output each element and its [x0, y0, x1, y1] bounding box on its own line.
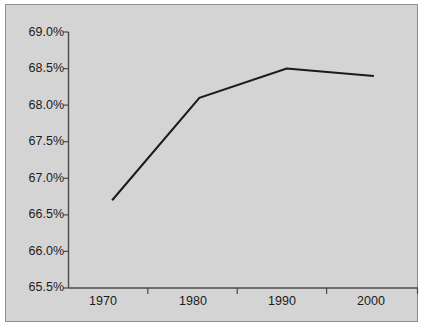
- x-axis-ticks: [148, 288, 418, 294]
- data-line-series-1: [112, 69, 374, 201]
- y-axis-ticks: [63, 32, 69, 288]
- plot-area: [0, 0, 432, 333]
- chart-figure: 69.0% 68.5% 68.0% 67.5% 67.0% 66.5% 66.0…: [0, 0, 432, 333]
